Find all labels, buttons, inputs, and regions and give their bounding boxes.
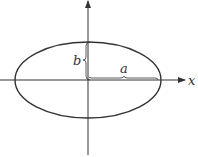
semi-major-brace [89,76,158,80]
semi-minor-brace [83,42,90,80]
label-b: b [73,53,81,68]
label-a: a [120,61,128,76]
label-x-axis: x [188,73,196,88]
diagram-svg: b a x [0,0,198,157]
ellipse-diagram: b a x [0,0,198,157]
